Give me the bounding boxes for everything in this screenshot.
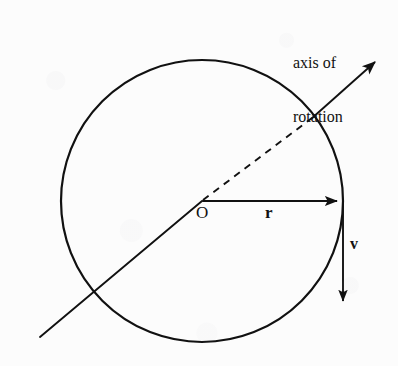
axis-of-rotation-label-line-1: axis of	[293, 54, 343, 72]
radius-vector-label: r	[265, 203, 273, 222]
origin-label: O	[196, 203, 208, 222]
velocity-vector-label: v	[350, 235, 358, 253]
physics-diagram-figure: axis of rotation O r v	[0, 0, 398, 366]
centre-point-marker	[202, 200, 204, 202]
axis-of-rotation-label: axis of rotation	[293, 18, 343, 161]
axis-of-rotation-label-line-2: rotation	[293, 108, 343, 126]
